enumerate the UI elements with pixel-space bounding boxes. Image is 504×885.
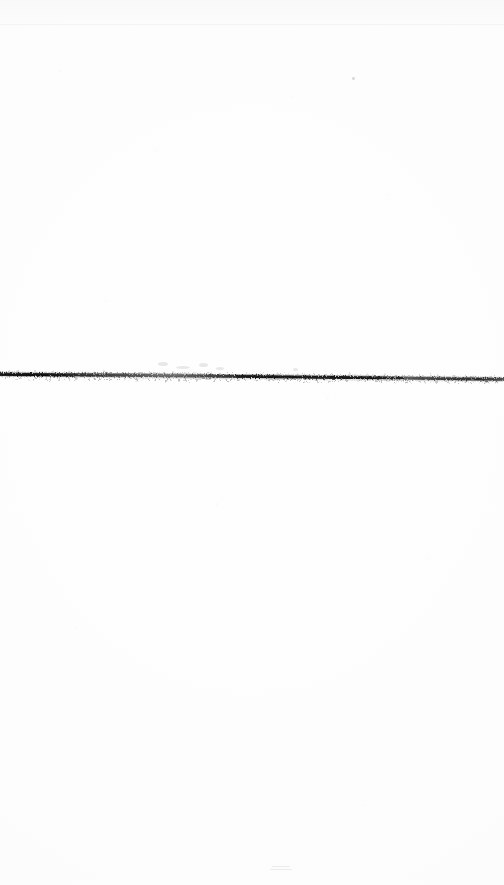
scanned-page [0,0,504,885]
paper-background [0,0,504,885]
